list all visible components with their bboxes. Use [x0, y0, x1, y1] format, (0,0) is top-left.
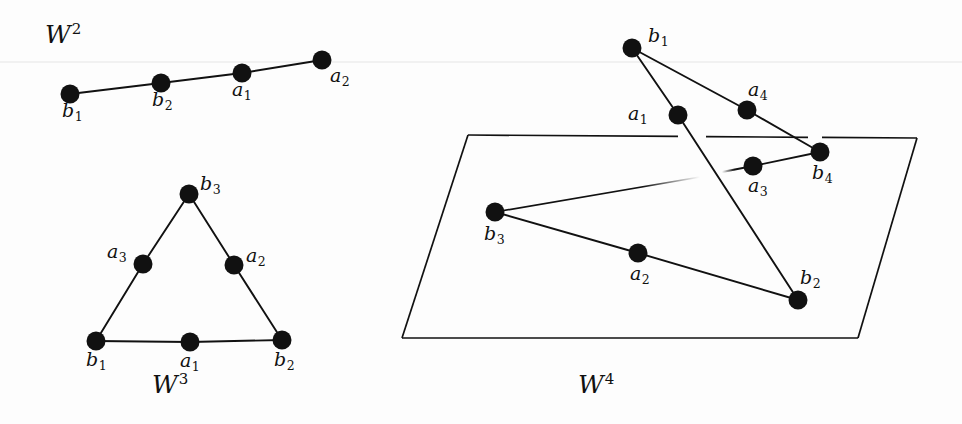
label-w4-a1-base: a — [628, 102, 639, 124]
label-w2-a2-sub: 2 — [342, 74, 350, 89]
label-w2-a2: a2 — [330, 66, 350, 88]
edge-a1-b2 — [190, 340, 282, 342]
label-w2-a2-base: a — [330, 64, 341, 86]
label-w4-a3: a3 — [748, 176, 768, 198]
space-label-w2-exponent: 2 — [72, 20, 82, 38]
label-w3-a1-base: a — [180, 349, 191, 371]
plane-right-edge — [858, 138, 917, 338]
label-w3-a3-base: a — [107, 240, 118, 262]
w2-vertices — [61, 51, 332, 104]
vertex-a2 — [313, 51, 332, 70]
label-w4-a1: a1 — [628, 104, 648, 126]
label-w3-b1-base: b — [86, 348, 98, 370]
vertex-a3 — [134, 255, 153, 274]
plane-top-edge-seg1 — [468, 135, 678, 136]
plane-left-edge — [402, 135, 468, 338]
label-w3-b3-base: b — [200, 172, 212, 194]
space-label-w2-base: W — [45, 20, 71, 49]
label-w4-a4: a4 — [748, 80, 768, 102]
space-label-w4-exponent: 4 — [605, 370, 615, 388]
label-w3-a3-sub: 3 — [119, 250, 127, 265]
w3-edges — [96, 194, 282, 342]
vertex-a2 — [225, 256, 244, 275]
label-w4-b2-sub: 2 — [813, 276, 821, 291]
label-w3-b1: b1 — [86, 350, 107, 372]
label-w4-b1: b1 — [648, 26, 669, 48]
label-w4-b2-base: b — [800, 266, 812, 288]
label-w4-b3-sub: 3 — [497, 232, 505, 247]
edge-a2-b2 — [234, 265, 282, 340]
edge-b2-a1 — [161, 73, 242, 83]
vertex-a4 — [738, 101, 757, 120]
space-label-w3-base: W — [152, 370, 178, 399]
edge-a3-b3 — [143, 194, 189, 264]
vertex-b1 — [623, 39, 642, 58]
label-w4-b1-sub: 1 — [661, 34, 669, 49]
edge-b1-a4 — [632, 48, 747, 110]
edge-b3-a2 — [189, 194, 234, 265]
w2-edges — [70, 60, 322, 94]
edge-a2-b2 — [638, 253, 798, 300]
label-w4-b2: b2 — [800, 268, 821, 290]
label-w4-b4: b4 — [812, 163, 833, 185]
label-w3-b2: b2 — [274, 350, 295, 372]
space-label-w4-base: W — [578, 370, 604, 399]
label-w4-b3: b3 — [484, 224, 505, 246]
edge-b1-b2 — [70, 83, 161, 94]
edge-b3-a1-occluded — [495, 177, 700, 212]
label-w3-a2-sub: 2 — [258, 254, 266, 269]
vertex-b3 — [180, 185, 199, 204]
edge-b4-a3 — [753, 152, 820, 166]
panel-w2 — [61, 51, 332, 104]
label-w3-b1-sub: 1 — [99, 358, 107, 373]
label-w2-b1-base: b — [62, 99, 74, 121]
space-label-w2: W2 — [45, 22, 81, 47]
edge-b3-a2 — [495, 212, 638, 253]
vertex-a2 — [629, 244, 648, 263]
label-w4-b4-base: b — [812, 161, 824, 183]
panel-w4 — [402, 39, 917, 339]
vertex-b3 — [486, 203, 505, 222]
label-w3-a1: a1 — [180, 351, 200, 373]
label-w4-a3-sub: 3 — [760, 184, 768, 199]
label-w4-a3-base: a — [748, 174, 759, 196]
label-w4-b1-base: b — [648, 24, 660, 46]
edge-b1-a1 — [96, 341, 190, 342]
vertex-a3 — [744, 157, 763, 176]
space-label-w4: W4 — [578, 372, 614, 397]
ambient-plane — [402, 135, 917, 338]
plane-top-edge-seg3 — [822, 137, 917, 138]
label-w4-b3-base: b — [484, 222, 496, 244]
space-label-w3: W3 — [152, 372, 188, 397]
edge-a1-b2 — [678, 115, 798, 300]
edge-b1-a3 — [96, 264, 143, 341]
w4-edges — [495, 48, 820, 300]
label-w2-b2-base: b — [152, 88, 164, 110]
label-w3-b3: b3 — [200, 174, 221, 196]
label-w4-a2-base: a — [630, 262, 641, 284]
label-w3-a3: a3 — [107, 242, 127, 264]
label-w2-b2: b2 — [152, 90, 173, 112]
label-w2-b1-sub: 1 — [75, 109, 83, 124]
figure-canvas — [0, 0, 962, 424]
label-w4-a2-sub: 2 — [642, 272, 650, 287]
edge-a4-b4 — [747, 110, 820, 152]
label-w3-b3-sub: 3 — [213, 182, 221, 197]
label-w2-a1: a1 — [232, 80, 252, 102]
vertex-b2 — [273, 331, 292, 350]
label-w2-a1-sub: 1 — [244, 88, 252, 103]
label-w3-a2-base: a — [246, 244, 257, 266]
label-w3-a2: a2 — [246, 246, 266, 268]
label-w4-a4-sub: 4 — [760, 88, 768, 103]
label-w4-a1-sub: 1 — [640, 112, 648, 127]
label-w2-b1: b1 — [62, 101, 83, 123]
label-w4-a4-base: a — [748, 78, 759, 100]
label-w2-b2-sub: 2 — [165, 98, 173, 113]
vertex-a1 — [669, 106, 688, 125]
label-w3-b2-base: b — [274, 348, 286, 370]
vertex-b2 — [789, 291, 808, 310]
label-w3-a1-sub: 1 — [192, 359, 200, 374]
label-w3-b2-sub: 2 — [287, 358, 295, 373]
label-w4-b4-sub: 4 — [825, 171, 833, 186]
label-w2-a1-base: a — [232, 78, 243, 100]
